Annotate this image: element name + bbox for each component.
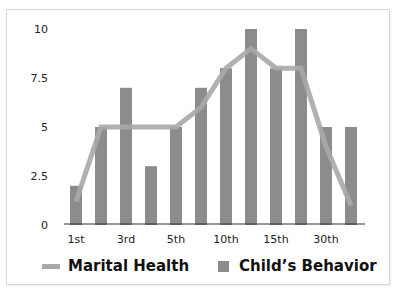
y-axis-ticks: 02.557.510 xyxy=(31,23,49,232)
bar xyxy=(270,68,282,225)
bar xyxy=(220,68,232,225)
x-tick-label: 10th xyxy=(213,233,238,246)
bar xyxy=(120,88,132,225)
legend-item-childs-behavior: Child’s Behavior xyxy=(218,255,377,277)
line-series-marital-health xyxy=(76,49,351,206)
line-swatch-icon xyxy=(42,264,60,269)
y-tick-label: 0 xyxy=(41,219,48,232)
x-tick-label: 30th xyxy=(313,233,338,246)
bar xyxy=(145,166,157,225)
legend-label-marital-health: Marital Health xyxy=(68,257,189,275)
legend-item-marital-health: Marital Health xyxy=(42,255,189,277)
y-tick-label: 2.5 xyxy=(31,170,49,183)
bar xyxy=(345,127,357,225)
y-tick-label: 10 xyxy=(34,23,48,36)
bar xyxy=(295,29,307,225)
bar xyxy=(170,127,182,225)
x-tick-label: 1st xyxy=(67,233,85,246)
y-tick-label: 7.5 xyxy=(31,72,49,85)
x-tick-label: 5th xyxy=(167,233,185,246)
x-tick-label: 15th xyxy=(263,233,288,246)
chart-plot: 02.557.510 1st3rd5th10th15th30th xyxy=(0,0,394,293)
x-axis-ticks: 1st3rd5th10th15th30th xyxy=(67,233,338,246)
y-tick-label: 5 xyxy=(41,121,48,134)
legend-label-childs-behavior: Child’s Behavior xyxy=(239,257,377,275)
bar xyxy=(245,29,257,225)
x-tick-label: 3rd xyxy=(117,233,135,246)
bar-swatch-icon xyxy=(218,261,229,272)
